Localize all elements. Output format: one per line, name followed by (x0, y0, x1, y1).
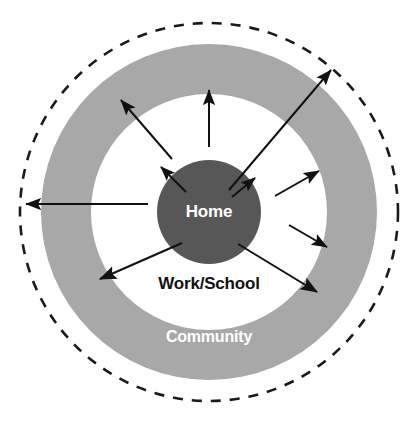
concentric-model-diagram: HomeWork/SchoolCommunity (0, 0, 413, 427)
outer-ring-label: Community (166, 328, 253, 345)
diagram-canvas: HomeWork/SchoolCommunity (0, 0, 413, 427)
middle-ring-label: Work/School (158, 274, 259, 293)
inner-circle-label: Home (186, 202, 232, 221)
